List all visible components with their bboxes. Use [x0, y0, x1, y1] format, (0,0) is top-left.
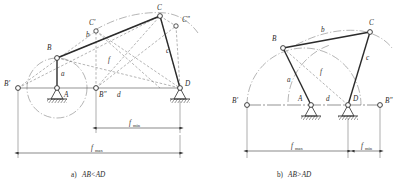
- label-b-prime-b: B': [232, 97, 238, 105]
- joint-c-dprime-a: [174, 24, 178, 28]
- label-link-a-a: a: [61, 70, 65, 78]
- label-link-b-a: b: [86, 31, 90, 39]
- label-d-point-a: D: [184, 80, 191, 88]
- svg-text:AB>AD: AB>AD: [287, 171, 312, 179]
- joint-b-a: [55, 56, 60, 61]
- label-b-prime-a: B': [4, 80, 10, 88]
- svg-text:AB<AD: AB<AD: [81, 171, 106, 179]
- label-link-a-b: a: [287, 76, 291, 84]
- label-a-point-b: A: [297, 95, 303, 103]
- label-link-b-b: b: [321, 26, 325, 34]
- label-c-dprime-a: C": [182, 16, 191, 24]
- joint-b-prime-a: [16, 86, 21, 91]
- joint-b-dprime-a: [94, 86, 99, 91]
- caption-b: b) AB>AD: [277, 171, 312, 179]
- label-fmax-sub-a: max: [95, 148, 104, 153]
- label-c-b: C: [369, 19, 374, 27]
- joint-b-dprime-b: [378, 103, 383, 108]
- label-fmin-sub-a: min: [133, 123, 141, 128]
- label-b-b: B: [272, 35, 277, 43]
- label-fmax-sub-b: max: [295, 146, 304, 151]
- joint-c-b: [368, 30, 373, 35]
- figure-canvas: B B' B" C C' C" A D a b c d f f min f ma…: [0, 0, 406, 189]
- caption-a: a) AB<AD: [71, 171, 106, 179]
- label-c-a: C: [157, 4, 162, 12]
- label-d-point-b: D: [352, 95, 359, 103]
- label-link-d-b: d: [326, 95, 330, 103]
- label-c-prime-a: C': [89, 19, 96, 27]
- label-a-point-a: A: [63, 91, 69, 99]
- joint-c-prime-a: [94, 29, 98, 33]
- svg-text:a): a): [71, 171, 77, 179]
- label-link-d-a: d: [117, 91, 121, 99]
- joint-b-b: [281, 46, 286, 51]
- mechanism-figure: B B' B" C C' C" A D a b c d f f min f ma…: [0, 0, 406, 189]
- label-b-a: B: [47, 44, 52, 52]
- joint-b-prime-b: [245, 103, 250, 108]
- label-b-dprime-a: B": [99, 91, 107, 99]
- label-fmin-sub-b: min: [365, 146, 373, 151]
- svg-text:b): b): [277, 171, 284, 179]
- joint-c-a: [158, 14, 163, 19]
- label-b-dprime-b: B": [385, 97, 393, 105]
